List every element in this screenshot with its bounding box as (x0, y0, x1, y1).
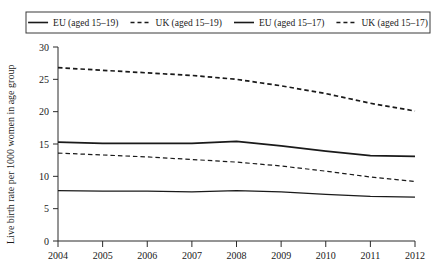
line-chart: EU (aged 15–19)UK (aged 15–19)EU (aged 1… (0, 0, 442, 272)
chart-series-group (58, 68, 415, 197)
y-tick-label: 30 (39, 42, 49, 53)
x-tick-label: 2010 (316, 250, 336, 261)
series-line-0 (58, 141, 415, 156)
chart-figure: EU (aged 15–19)UK (aged 15–19)EU (aged 1… (0, 0, 442, 272)
y-tick-label: 20 (39, 106, 49, 117)
x-tick-label: 2008 (227, 250, 247, 261)
legend-label-2: EU (aged 15–17) (259, 18, 324, 29)
chart-legend: EU (aged 15–19)UK (aged 15–19)EU (aged 1… (26, 12, 430, 33)
x-axis-ticks: 200420052006200720082009201020112012 (48, 241, 425, 261)
legend-label-3: UK (aged 15–17) (361, 18, 427, 29)
x-tick-label: 2009 (271, 250, 291, 261)
series-line-2 (58, 191, 415, 197)
x-tick-label: 2004 (48, 250, 68, 261)
x-tick-label: 2012 (405, 250, 425, 261)
x-tick-label: 2005 (93, 250, 113, 261)
y-tick-label: 15 (39, 139, 49, 150)
y-axis-title: Live birth rate per 1000 women in age gr… (5, 65, 16, 244)
y-tick-label: 25 (39, 74, 49, 85)
x-tick-label: 2006 (137, 250, 157, 261)
x-tick-label: 2007 (182, 250, 202, 261)
legend-label-0: EU (aged 15–19) (53, 18, 118, 29)
legend-label-1: UK (aged 15–19) (156, 18, 222, 29)
y-tick-label: 10 (39, 171, 49, 182)
y-tick-label: 5 (44, 203, 49, 214)
series-line-1 (58, 68, 415, 111)
y-axis-ticks: 051015202530 (39, 42, 58, 247)
series-line-3 (58, 153, 415, 181)
x-tick-label: 2011 (361, 250, 381, 261)
y-tick-label: 0 (44, 236, 49, 247)
